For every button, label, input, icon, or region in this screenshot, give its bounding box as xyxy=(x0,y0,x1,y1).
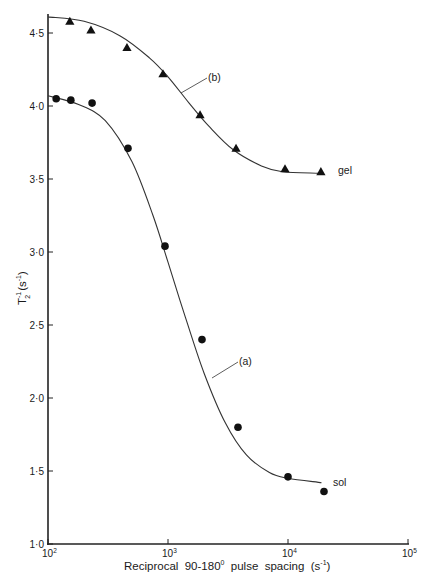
y-ticks: 1·01·52·02·53·03·54·04·5 xyxy=(30,28,53,550)
data-point-gel xyxy=(280,164,289,172)
y-axis-title-exp: -1 xyxy=(15,292,22,298)
data-point-sol xyxy=(67,96,75,104)
x-tick-base: 10 xyxy=(402,548,414,559)
x-tick-base: 10 xyxy=(162,548,174,559)
data-point-sol xyxy=(161,242,169,250)
y-tick-label: 4·5 xyxy=(30,28,45,39)
y-tick-label: 1·5 xyxy=(30,466,45,477)
x-ticks: 102103104105 xyxy=(42,539,417,559)
y-tick-label: 2·0 xyxy=(30,393,45,404)
y-axis-title-close: ) xyxy=(16,271,28,275)
y-tick-label: 3·5 xyxy=(30,174,45,185)
data-point-sol xyxy=(198,336,206,344)
y-axis-title: T-12(s-1) xyxy=(15,271,31,305)
label-sol: sol xyxy=(333,476,346,488)
x-tick-exp: 2 xyxy=(53,547,57,554)
annotation-a: (a) xyxy=(239,355,252,367)
data-point-gel xyxy=(231,144,240,152)
data-point-gel xyxy=(316,167,325,175)
data-point-gel xyxy=(65,17,74,25)
leader-lines xyxy=(181,78,238,378)
data-point-gel xyxy=(195,110,204,118)
data-point-gel xyxy=(122,43,131,51)
label-gel: gel xyxy=(338,164,352,176)
chart: 1·01·52·02·53·03·54·04·5 102103104105 (b… xyxy=(0,0,427,581)
x-axis-title-units: pulse spacing (s xyxy=(224,560,320,572)
fit-curve-sol xyxy=(48,96,322,483)
data-point-gel xyxy=(158,69,167,77)
x-tick-label: 104 xyxy=(282,547,297,559)
y-tick-label: 3·0 xyxy=(30,247,45,258)
leader-line-b xyxy=(181,78,207,93)
x-tick-exp: 5 xyxy=(413,547,417,554)
x-tick-exp: 3 xyxy=(173,547,177,554)
x-tick-base: 10 xyxy=(42,548,54,559)
y-tick-label: 2·5 xyxy=(30,320,45,331)
annotation-b: (b) xyxy=(208,71,221,83)
data-point-sol xyxy=(234,423,242,431)
data-markers xyxy=(52,17,327,496)
data-point-sol xyxy=(88,99,96,107)
x-tick-label: 105 xyxy=(402,547,417,559)
x-axis-title-close: ) xyxy=(327,560,331,572)
y-axis-title-units: (s xyxy=(16,281,28,291)
x-tick-label: 102 xyxy=(42,547,57,559)
data-point-sol xyxy=(124,145,132,153)
x-tick-base: 10 xyxy=(282,548,294,559)
x-tick-exp: 4 xyxy=(293,547,297,554)
y-axis-title-sub: 2 xyxy=(24,295,31,299)
leader-line-a xyxy=(212,362,238,378)
y-tick-label: 4·0 xyxy=(30,101,45,112)
data-point-sol xyxy=(52,95,60,103)
fit-curve-gel xyxy=(48,17,319,173)
data-point-gel xyxy=(86,25,95,33)
x-axis-title: Reciprocal 90-1800 pulse spacing (s-1) xyxy=(124,559,331,572)
x-axis-title-main: Reciprocal 90-180 xyxy=(124,560,221,572)
data-point-sol xyxy=(320,488,328,496)
x-tick-label: 103 xyxy=(162,547,177,559)
fit-curves xyxy=(48,17,322,483)
axes xyxy=(47,14,409,545)
data-point-sol xyxy=(284,473,292,481)
